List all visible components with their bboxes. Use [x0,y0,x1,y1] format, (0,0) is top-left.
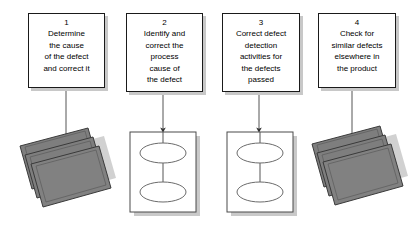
step-number-4: 4 [355,17,359,28]
plate-front [31,146,111,207]
step-number-1: 1 [64,17,68,28]
plate-back [312,126,392,187]
step-box-2[interactable]: 2 Identify and correct the process cause… [126,13,203,92]
step-label-4: Check for similar defects elsewhere in t… [328,28,385,74]
step-box-3[interactable]: 3 Correct defect detection activities fo… [222,13,300,92]
step-label-1: Determine the cause of the defect and co… [40,28,92,74]
sheet-body [130,132,196,212]
step-label-2: Identify and correct the process cause o… [141,28,188,86]
ellipse-upper [140,143,186,163]
plate-back [20,128,100,189]
two-ellipse-sheet-step-2 [130,132,200,216]
step-box-1[interactable]: 1 Determine the cause of the defect and … [28,13,105,88]
ellipse-upper [237,143,283,163]
process-flow-diagram: 1 Determine the cause of the defect and … [0,0,415,234]
stacked-plates-step-1 [20,128,116,207]
ellipse-lower [237,182,283,202]
sheet-body [227,132,293,212]
stacked-plates-step-4 [312,126,408,205]
plate-front [323,144,403,205]
step-number-2: 2 [162,17,166,28]
plate-middle [317,135,397,196]
two-ellipse-sheet-step-3 [227,132,297,216]
connector-arrows [66,89,352,147]
step-label-3: Correct defect detection activities for … [233,28,289,86]
ellipse-lower [140,182,186,202]
plate-middle [25,137,105,198]
step-box-4[interactable]: 4 Check for similar defects elsewhere in… [318,13,396,88]
step-number-3: 3 [259,17,263,28]
